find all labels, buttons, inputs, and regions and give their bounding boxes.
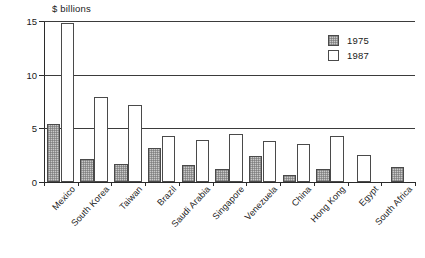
- bar-1987: [357, 155, 371, 182]
- x-axis-label: Egypt: [357, 184, 380, 208]
- chart-legend: 1975 1987: [328, 33, 406, 63]
- legend-label-1975: 1975: [347, 35, 369, 46]
- bar-1987: [297, 144, 311, 182]
- bar-1987: [128, 105, 142, 182]
- y-tick-label-10: 10: [26, 69, 37, 80]
- x-axis-label: Venezuela: [243, 184, 280, 222]
- bar-1975: [249, 156, 263, 182]
- bar-group: [213, 21, 247, 182]
- x-axis-label: Taiwan: [118, 184, 145, 212]
- legend-label-1987: 1987: [347, 50, 369, 61]
- bar-chart: $ billions 051015 MexicoSouth KoreaTaiwa…: [0, 0, 425, 258]
- bar-1975: [316, 169, 330, 182]
- bar-1987: [162, 136, 176, 182]
- bar-1975: [283, 175, 297, 183]
- bar-1987: [330, 136, 344, 182]
- gridline-0: [44, 182, 415, 183]
- x-axis-label: Hong Kong: [308, 184, 347, 224]
- x-axis-category-labels: MexicoSouth KoreaTaiwanBrazilSaudi Arabi…: [44, 184, 415, 258]
- bar-1987: [196, 140, 210, 182]
- bar-group: [145, 21, 179, 182]
- x-axis-label: Brazil: [155, 184, 178, 208]
- bar-1987: [263, 141, 277, 182]
- x-axis-label: China: [290, 184, 314, 208]
- bar-1975: [114, 164, 128, 182]
- y-tick-label-0: 0: [32, 177, 37, 188]
- bar-1975: [391, 167, 405, 182]
- x-axis-tick: [415, 182, 416, 186]
- x-axis-label: Mexico: [50, 184, 77, 212]
- legend-item-1975: 1975: [328, 33, 406, 48]
- bar-group: [111, 21, 145, 182]
- bar-1987: [94, 97, 108, 182]
- bar-1975: [182, 165, 196, 182]
- y-tick-label-15: 15: [26, 16, 37, 27]
- bar-1987: [61, 23, 75, 182]
- bar-1975: [148, 148, 162, 182]
- bar-group: [179, 21, 213, 182]
- bar-group: [78, 21, 112, 182]
- x-axis-label: Singapore: [210, 184, 246, 221]
- bar-1987: [229, 134, 243, 182]
- bar-group: [246, 21, 280, 182]
- legend-item-1987: 1987: [328, 48, 406, 63]
- bar-1975: [47, 124, 61, 182]
- y-axis-title: $ billions: [52, 3, 91, 14]
- bar-group: [44, 21, 78, 182]
- bar-1975: [215, 169, 229, 182]
- bar-1975: [80, 159, 94, 182]
- legend-swatch-1987-icon: [328, 50, 339, 61]
- legend-swatch-1975-icon: [328, 35, 339, 46]
- bar-group: [280, 21, 314, 182]
- y-tick-label-5: 5: [32, 123, 37, 134]
